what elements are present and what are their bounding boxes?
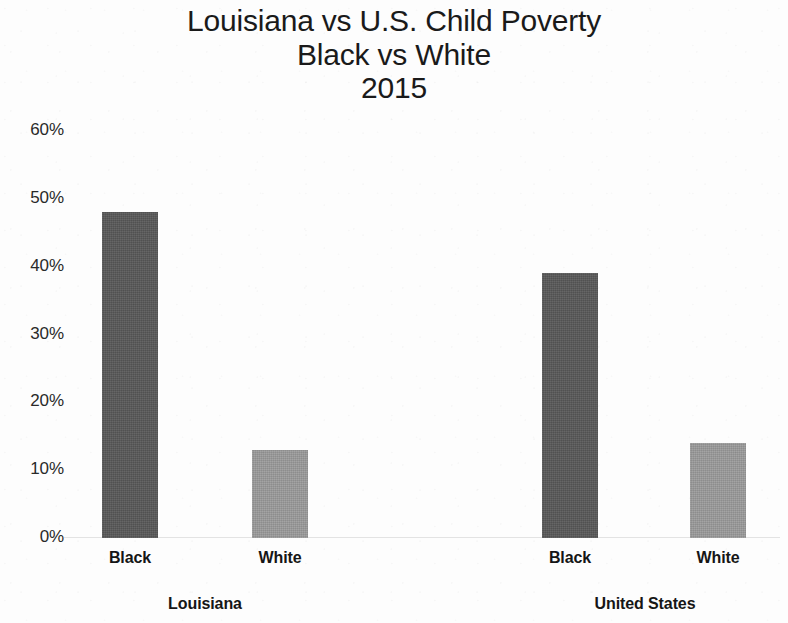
y-axis: 60% 50% 40% 30% 20% 10% 0% <box>0 118 70 548</box>
x-tick-label-united-states-black: Black <box>549 549 591 567</box>
chart-title: Louisiana vs U.S. Child Poverty Black vs… <box>0 4 788 105</box>
y-tick-label-50: 50% <box>30 188 64 208</box>
bar-louisiana-black <box>102 212 158 538</box>
y-tick-label-30: 30% <box>30 324 64 344</box>
group-label-louisiana: Louisiana <box>168 595 242 613</box>
group-label-united-states: United States <box>595 595 696 613</box>
y-tick-label-40: 40% <box>30 256 64 276</box>
chart-title-line-2: Black vs White <box>0 38 788 72</box>
bar-louisiana-white <box>252 450 308 538</box>
y-tick-label-60: 60% <box>30 120 64 140</box>
bar-united-states-black <box>542 273 598 538</box>
plot-area <box>78 130 778 538</box>
y-tick-label-20: 20% <box>30 391 64 411</box>
bar-united-states-white <box>690 443 746 538</box>
x-tick-label-united-states-white: White <box>696 549 739 567</box>
chart-title-line-1: Louisiana vs U.S. Child Poverty <box>0 4 788 38</box>
chart-figure: Louisiana vs U.S. Child Poverty Black vs… <box>0 0 788 623</box>
y-tick-label-10: 10% <box>30 459 64 479</box>
chart-title-line-3: 2015 <box>0 71 788 105</box>
y-tick-label-0: 0% <box>40 527 64 547</box>
x-tick-label-louisiana-black: Black <box>109 549 151 567</box>
x-tick-label-louisiana-white: White <box>258 549 301 567</box>
